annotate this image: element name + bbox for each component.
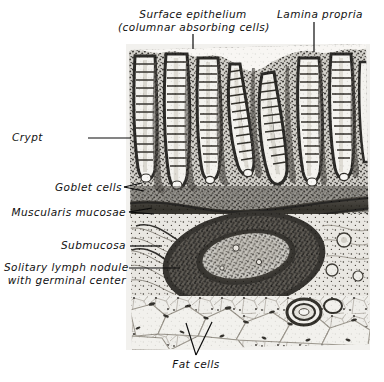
label-crypt: Crypt [12, 131, 82, 144]
label-solitary-lymph-nodule: Solitary lymph nodule with germinal cent… [4, 261, 126, 286]
label-goblet-cells: Goblet cells [30, 181, 122, 194]
label-submucosa: Submucosa [48, 239, 126, 252]
label-muscularis-mucosae: Muscularis mucosae [8, 206, 126, 219]
label-lamina-propria-line1: Lamina propria [268, 8, 372, 21]
label-muscularis-mucosae-line1: Muscularis mucosae [8, 206, 126, 219]
label-lamina-propria: Lamina propria [268, 8, 372, 21]
micrograph-plate [126, 44, 370, 350]
label-fat-cells-line1: Fat cells [165, 358, 227, 371]
histology-figure: Surface epithelium (columnar absorbing c… [0, 0, 384, 382]
label-goblet-cells-line1: Goblet cells [30, 181, 122, 194]
label-solitary-lymph-nodule-line2: with germinal center [4, 274, 126, 287]
label-surface-epithelium: Surface epithelium (columnar absorbing c… [118, 8, 268, 33]
label-surface-epithelium-line2: (columnar absorbing cells) [118, 21, 268, 34]
label-submucosa-line1: Submucosa [48, 239, 126, 252]
label-fat-cells: Fat cells [165, 358, 227, 371]
micrograph-image [126, 44, 370, 350]
label-solitary-lymph-nodule-line1: Solitary lymph nodule [4, 261, 126, 274]
label-crypt-line1: Crypt [12, 131, 82, 144]
label-surface-epithelium-line1: Surface epithelium [118, 8, 268, 21]
